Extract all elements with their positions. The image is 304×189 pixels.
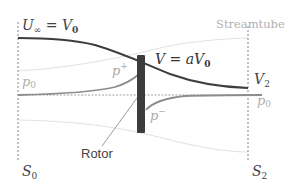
label-p0-right: p0 bbox=[257, 93, 271, 109]
label-u-inf: U∞ = V0 bbox=[22, 17, 78, 35]
streamtube-diagram: U∞ = V0 Streamtube V = aV0 V2 p0 p0 p+ p… bbox=[0, 0, 304, 189]
rotor-leader-line bbox=[102, 98, 137, 146]
label-streamtube: Streamtube bbox=[216, 17, 285, 31]
label-s0: S0 bbox=[22, 163, 38, 181]
label-p-plus: p+ bbox=[112, 61, 128, 78]
label-p-minus: p− bbox=[150, 106, 166, 123]
label-s2: S2 bbox=[252, 163, 267, 181]
label-rotor: Rotor bbox=[81, 146, 113, 161]
streamtube-upper-boundary bbox=[18, 38, 248, 71]
label-v-disc: V = aV0 bbox=[155, 51, 210, 69]
streamtube-lower-boundary bbox=[18, 120, 248, 152]
label-v2: V2 bbox=[254, 71, 270, 89]
velocity-curve bbox=[18, 38, 248, 88]
rotor-disc bbox=[137, 55, 145, 133]
label-p0-left: p0 bbox=[22, 74, 36, 90]
